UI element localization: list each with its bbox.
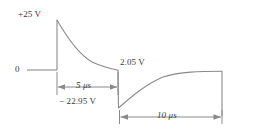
- second-interval-label: 10 μs: [157, 111, 177, 120]
- mid-voltage-label: 2.05 V: [120, 58, 145, 67]
- waveform-plot: [0, 0, 255, 138]
- zero-level-label: 0: [15, 65, 20, 74]
- min-voltage-label: − 22.95 V: [59, 97, 96, 106]
- peak-voltage-label: +25 V: [18, 10, 41, 19]
- exponential-decay-curve: [57, 20, 118, 70]
- exponential-rise-curve: [119, 71, 223, 108]
- dim2-arrowhead-right: [214, 114, 222, 120]
- dim1-arrowhead-right: [110, 84, 117, 90]
- voltage-waveform-figure: +25 V 0 2.05 V − 22.95 V 5 μs 10 μs: [0, 0, 255, 138]
- first-interval-label: 5 μs: [76, 81, 91, 90]
- dim1-arrowhead-left: [58, 84, 65, 90]
- dim2-arrowhead-left: [121, 114, 129, 120]
